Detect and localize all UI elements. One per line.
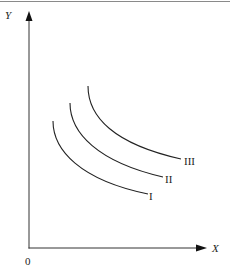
x-axis	[29, 245, 208, 252]
curve-label-1: I	[149, 190, 153, 202]
x-axis-arrow-icon	[196, 245, 207, 252]
indifference-curve-2	[70, 103, 163, 177]
y-axis	[26, 11, 33, 249]
curve-label-3: III	[184, 155, 195, 167]
x-axis-label: X	[211, 242, 220, 254]
y-axis-label: Y	[5, 9, 13, 21]
curve-label-2: II	[165, 173, 173, 185]
indifference-curve-1	[53, 121, 148, 194]
y-axis-arrow-icon	[26, 11, 33, 21]
indifference-curve-diagram: Y X 0 I II III	[0, 0, 230, 269]
indifference-curve-3	[88, 86, 181, 159]
origin-label: 0	[25, 255, 31, 267]
